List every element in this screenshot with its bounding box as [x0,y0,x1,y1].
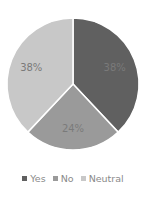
pie-label-neutral: 38% [20,62,42,73]
legend-item-no: No [53,173,74,184]
pie-label-yes: 38% [104,62,126,73]
legend-item-yes: Yes [22,173,45,184]
legend-label-neutral: Neutral [89,173,124,184]
legend-swatch-no [53,176,58,181]
legend-label-no: No [61,173,74,184]
pie-label-no: 24% [62,123,84,134]
legend-label-yes: Yes [30,173,45,184]
legend-swatch-yes [22,176,27,181]
chart-legend: Yes No Neutral [0,173,146,184]
legend-swatch-neutral [81,176,86,181]
pie-chart: 38%24%38% [0,0,146,200]
legend-item-neutral: Neutral [81,173,124,184]
